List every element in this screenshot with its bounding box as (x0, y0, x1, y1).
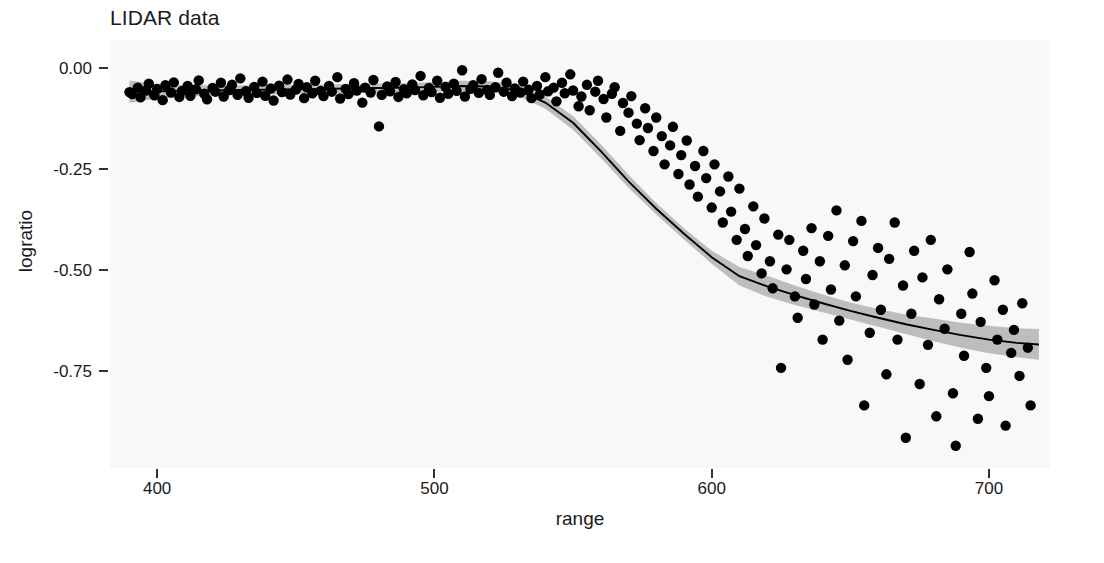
y-axis-ticks: 0.00-0.25-0.50-0.75 (0, 0, 92, 563)
data-point (332, 72, 342, 82)
data-point (551, 96, 561, 106)
data-point (707, 202, 717, 212)
data-point (493, 68, 503, 78)
data-point (368, 75, 378, 85)
data-point (374, 121, 384, 131)
data-point (773, 229, 783, 239)
data-point (998, 305, 1008, 315)
data-point (1014, 371, 1024, 381)
data-point (676, 150, 686, 160)
fit-line (129, 86, 1038, 344)
data-point (557, 78, 567, 88)
data-point (740, 224, 750, 234)
data-point (640, 103, 650, 113)
x-tick-label: 600 (698, 480, 726, 497)
data-point (715, 186, 725, 196)
data-point (992, 334, 1002, 344)
data-point (618, 98, 628, 108)
y-tick-mark (99, 269, 108, 271)
data-point (798, 246, 808, 256)
data-point (756, 268, 766, 278)
data-point (898, 280, 908, 290)
data-point (390, 77, 400, 87)
y-axis-title: logratio (15, 181, 37, 301)
data-point (890, 217, 900, 227)
data-point (693, 191, 703, 201)
data-point (776, 363, 786, 373)
data-point (632, 118, 642, 128)
data-point (867, 270, 877, 280)
data-point (593, 76, 603, 86)
data-point (948, 388, 958, 398)
data-points (124, 65, 1036, 451)
data-point (634, 135, 644, 145)
y-tick-label: -0.75 (53, 363, 92, 380)
x-tick-mark (988, 469, 990, 478)
data-point (615, 126, 625, 136)
data-point (901, 433, 911, 443)
data-point (909, 246, 919, 256)
data-point (169, 77, 179, 87)
data-point (731, 235, 741, 245)
data-point (967, 288, 977, 298)
data-point (723, 171, 733, 181)
plot-canvas (110, 40, 1050, 468)
data-point (1023, 342, 1033, 352)
data-point (892, 334, 902, 344)
data-point (365, 87, 375, 97)
data-point (690, 161, 700, 171)
data-point (682, 135, 692, 145)
data-point (576, 91, 586, 101)
data-point (623, 107, 633, 117)
data-point (981, 363, 991, 373)
data-point (989, 275, 999, 285)
data-point (851, 291, 861, 301)
x-tick-label: 500 (420, 480, 448, 497)
data-point (748, 201, 758, 211)
data-point (216, 78, 226, 88)
y-tick-label: -0.25 (53, 161, 92, 178)
data-point (975, 317, 985, 327)
data-point (476, 74, 486, 84)
data-point (856, 216, 866, 226)
data-point (743, 251, 753, 261)
data-point (657, 131, 667, 141)
x-tick-label: 400 (143, 480, 171, 497)
data-point (914, 379, 924, 389)
data-point (876, 305, 886, 315)
data-point (310, 76, 320, 86)
data-point (573, 101, 583, 111)
data-point (157, 95, 167, 105)
data-point (668, 122, 678, 132)
data-point (718, 217, 728, 227)
data-point (709, 159, 719, 169)
data-point (357, 97, 367, 107)
data-point (415, 71, 425, 81)
data-point (643, 123, 653, 133)
data-point (590, 86, 600, 96)
data-point (601, 112, 611, 122)
data-point (984, 391, 994, 401)
x-tick-mark (156, 469, 158, 478)
data-point (765, 256, 775, 266)
data-point (840, 260, 850, 270)
data-point (939, 324, 949, 334)
data-point (457, 65, 467, 75)
data-point (815, 256, 825, 266)
data-point (282, 74, 292, 84)
data-point (859, 400, 869, 410)
x-tick-label: 700 (975, 480, 1003, 497)
data-point (784, 235, 794, 245)
data-point (768, 283, 778, 293)
data-point (568, 85, 578, 95)
data-point (626, 91, 636, 101)
data-point (227, 80, 237, 90)
data-point (257, 76, 267, 86)
data-point (648, 146, 658, 156)
data-point (973, 414, 983, 424)
data-point (951, 441, 961, 451)
data-point (934, 294, 944, 304)
data-point (1025, 400, 1035, 410)
confidence-band (129, 80, 1038, 359)
data-point (1006, 348, 1016, 358)
